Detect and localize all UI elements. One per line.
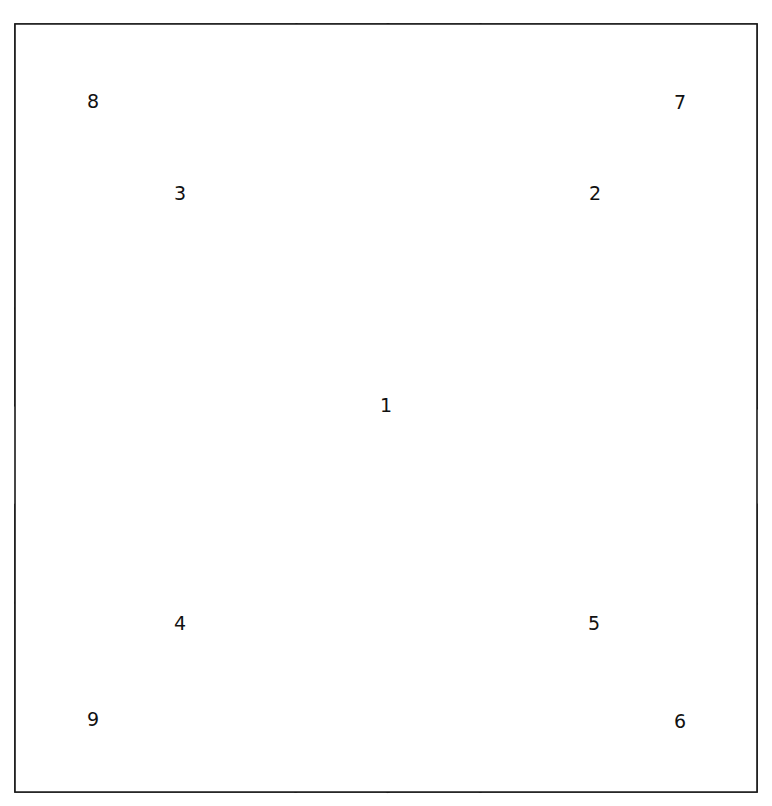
diagram-canvas: 123456789 xyxy=(0,0,772,806)
region-4-label: 4 xyxy=(174,612,186,634)
geometric-figure: 123456789 xyxy=(0,0,772,806)
region-3-label: 3 xyxy=(174,182,186,204)
region-7-label: 7 xyxy=(674,91,686,113)
region-9-label: 9 xyxy=(87,708,99,730)
region-6-label: 6 xyxy=(674,710,686,732)
region-1-label: 1 xyxy=(380,394,392,416)
region-2-label: 2 xyxy=(589,182,601,204)
region-5-label: 5 xyxy=(588,612,600,634)
region-8-label: 8 xyxy=(87,90,99,112)
